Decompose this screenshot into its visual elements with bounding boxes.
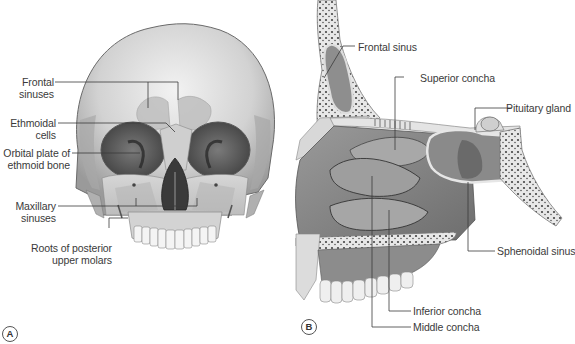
- label-orbital-plate: Orbital plate of ethmoid bone: [0, 147, 70, 171]
- label-pituitary-gland: Pituitary gland: [506, 102, 571, 114]
- panel-marker-b: B: [301, 319, 317, 335]
- label-sphenoidal-sinus: Sphenoidal sinus: [497, 245, 575, 257]
- label-maxillary-sinuses-line2: sinuses: [6, 212, 56, 224]
- label-roots-molars-line1: Roots of posterior: [20, 242, 112, 254]
- label-roots-molars-line2: upper molars: [20, 254, 112, 266]
- label-roots-molars: Roots of posterior upper molars: [20, 242, 112, 266]
- skull-group: [76, 24, 275, 249]
- panel-marker-a: A: [2, 326, 18, 342]
- label-orbital-plate-line1: Orbital plate of: [0, 147, 70, 159]
- label-frontal-sinuses: Frontal sinuses: [6, 76, 54, 100]
- label-frontal-sinus: Frontal sinus: [358, 41, 417, 53]
- label-maxillary-sinuses: Maxillary sinuses: [6, 200, 56, 224]
- label-middle-concha: Middle concha: [413, 321, 479, 333]
- label-frontal-sinuses-line1: Frontal: [6, 76, 54, 88]
- label-frontal-sinuses-line2: sinuses: [6, 88, 54, 100]
- pituitary-gland-shape: [481, 117, 499, 131]
- label-superior-concha: Superior concha: [420, 72, 495, 84]
- label-ethmoidal-cells: Ethmoidal cells: [6, 117, 56, 141]
- label-ethmoidal-cells-line1: Ethmoidal: [6, 117, 56, 129]
- label-maxillary-sinuses-line1: Maxillary: [6, 200, 56, 212]
- label-orbital-plate-line2: ethmoid bone: [0, 159, 70, 171]
- label-inferior-concha: Inferior concha: [413, 305, 481, 317]
- label-ethmoidal-cells-line2: cells: [6, 129, 56, 141]
- sagittal-section-group: [296, 0, 563, 303]
